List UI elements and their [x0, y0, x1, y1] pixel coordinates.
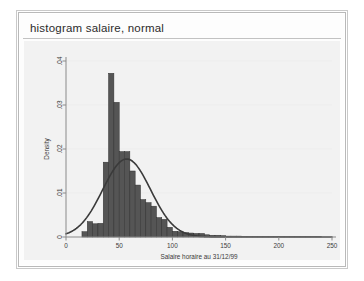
svg-text:.02: .02	[56, 144, 63, 153]
histogram-chart: 050100150200250 0.01.02.03.04 Salaire ho…	[24, 41, 340, 260]
svg-text:0: 0	[64, 242, 68, 249]
stata-graph-window: histogram salaire, normal 05010015020025…	[18, 12, 346, 267]
svg-text:0: 0	[56, 235, 63, 239]
svg-text:.04: .04	[56, 56, 63, 65]
y-axis-title: Density	[43, 138, 51, 160]
svg-text:.03: .03	[56, 100, 63, 109]
chart-background	[24, 41, 340, 260]
svg-text:200: 200	[273, 242, 284, 249]
svg-text:.01: .01	[56, 188, 63, 197]
svg-text:100: 100	[167, 242, 178, 249]
graph-command-title: histogram salaire, normal	[23, 22, 164, 34]
svg-text:150: 150	[220, 242, 231, 249]
svg-text:50: 50	[116, 242, 124, 249]
graph-title-bar: histogram salaire, normal	[23, 17, 341, 39]
plot-inner: 050100150200250 0.01.02.03.04 Salaire ho…	[24, 41, 340, 260]
svg-text:250: 250	[327, 242, 338, 249]
x-axis-title: Salaire horaire au 31/12/99	[160, 253, 238, 260]
plot-region: 050100150200250 0.01.02.03.04 Salaire ho…	[24, 41, 340, 260]
